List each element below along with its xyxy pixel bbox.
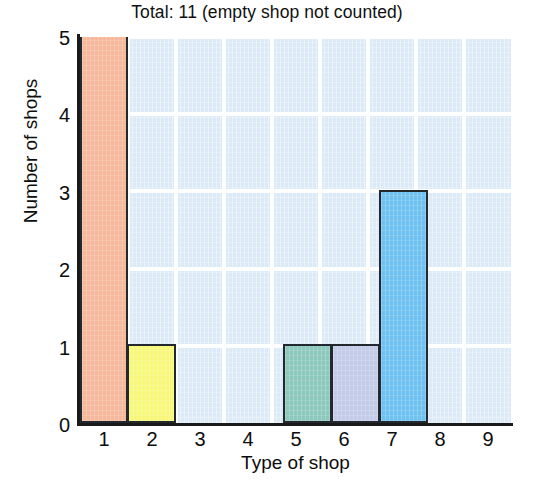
bar-type-1[interactable] [80,37,128,423]
bar-type-7[interactable] [379,190,428,423]
plot-area [80,37,511,423]
x-tick-label-3: 3 [185,429,215,449]
y-tick-label-1: 1 [44,338,70,358]
bar-type-2[interactable] [127,344,176,423]
x-tick-label-6: 6 [329,429,359,449]
gridline-vertical-4 [270,37,274,423]
gridline-horizontal-y2 [80,267,511,271]
bar-type-5[interactable] [283,344,332,423]
y-tick-label-2: 2 [44,260,70,280]
bar-texture [82,37,126,421]
x-axis-label: Type of shop [80,452,511,474]
x-tick-label-5: 5 [281,429,311,449]
gridline-horizontal-y5 [80,37,511,39]
bar-texture [381,192,426,421]
x-tick-label-8: 8 [425,429,455,449]
gridline-vertical-8 [462,37,466,423]
gridline-vertical-3 [222,37,226,423]
y-axis-ticks: 5 4 3 2 1 0 [44,0,70,480]
x-tick-label-9: 9 [473,429,503,449]
y-tick-label-4: 4 [44,105,70,125]
bar-type-6[interactable] [331,344,380,423]
bar-texture [333,346,378,421]
x-tick-label-1: 1 [89,429,119,449]
y-axis-line [77,34,80,426]
bar-texture [129,346,174,421]
x-tick-label-2: 2 [137,429,167,449]
y-tick-label-5: 5 [44,28,70,48]
bar-texture [285,346,330,421]
y-tick-label-3: 3 [44,183,70,203]
x-axis-line [77,423,513,426]
gridline-horizontal-y4 [80,112,511,116]
y-axis-label: Number of shops [20,36,42,266]
y-tick-label-0: 0 [44,415,70,435]
x-tick-label-7: 7 [377,429,407,449]
bar-chart: Total: 11 (empty shop not counted) [0,0,534,480]
x-tick-label-4: 4 [233,429,263,449]
chart-title: Total: 11 (empty shop not counted) [0,2,534,23]
gridline-horizontal-y3 [80,189,511,193]
